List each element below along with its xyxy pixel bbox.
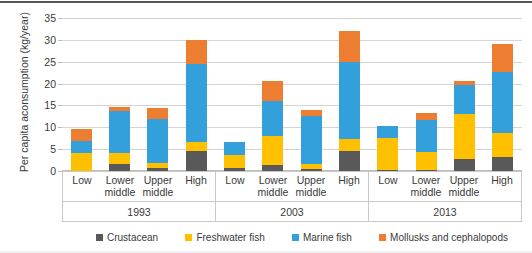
x-tick-label: Low <box>63 172 101 201</box>
stacked-bar[interactable] <box>301 110 322 171</box>
y-tick-label: 30 <box>44 34 56 46</box>
legend-swatch-icon <box>292 234 299 241</box>
x-tick-label-line1: High <box>185 174 207 186</box>
legend-label: Freshwater fish <box>196 232 264 243</box>
x-tick-label: Low <box>369 172 407 201</box>
stacked-bar[interactable] <box>224 142 245 171</box>
x-tick-label-line2: middle <box>411 186 442 198</box>
bar-group-2013 <box>369 18 522 171</box>
bar-segment-mollusks-and-cephalopods <box>147 108 168 119</box>
legend-item-crustacean[interactable]: Crustacean <box>96 232 158 243</box>
stacked-bar[interactable] <box>454 81 475 171</box>
bar-segment-marine-fish <box>416 120 437 151</box>
x-tick-label: Lowermiddle <box>407 172 445 201</box>
bar-slot <box>215 18 253 171</box>
stacked-bar[interactable] <box>71 129 92 171</box>
bar-slot <box>177 18 215 171</box>
bar-segment-freshwater-fish <box>186 142 207 151</box>
bar-segment-freshwater-fish <box>339 139 360 152</box>
bar-segment-marine-fish <box>71 141 92 153</box>
x-tick-label-line1: High <box>491 174 513 186</box>
year-label-band: 199320032013 <box>62 202 522 222</box>
bar-slot <box>254 18 292 171</box>
stacked-bar-chart: Per capita aconsumption (kg/year) 051015… <box>0 0 532 253</box>
stacked-bar[interactable] <box>262 81 283 171</box>
bar-groups <box>62 18 522 171</box>
year-label-2013: 2013 <box>368 202 521 221</box>
x-tick-label-line2: middle <box>449 186 480 198</box>
y-tick-label: 10 <box>44 121 56 133</box>
x-tick-label: Uppermiddle <box>139 172 177 201</box>
x-tick-label-line1: High <box>338 174 360 186</box>
bar-segment-crustacean <box>454 159 475 171</box>
x-tick-label-line1: Lower <box>412 174 441 186</box>
category-label-band: LowLowermiddleUppermiddleHighLowLowermid… <box>62 171 522 202</box>
bar-segment-freshwater-fish <box>262 136 283 165</box>
top-divider <box>0 1 532 3</box>
bar-segment-marine-fish <box>147 119 168 163</box>
chart-legend: CrustaceanFreshwater fishMarine fishMoll… <box>62 228 522 246</box>
x-tick-label-line2: middle <box>105 186 136 198</box>
bar-segment-marine-fish <box>492 72 513 133</box>
bar-segment-mollusks-and-cephalopods <box>262 81 283 101</box>
x-tick-label: Uppermiddle <box>445 172 483 201</box>
bar-slot <box>100 18 138 171</box>
bar-segment-freshwater-fish <box>492 133 513 156</box>
x-tick-label-line1: Upper <box>450 174 479 186</box>
bar-segment-crustacean <box>492 157 513 171</box>
category-group-2003: LowLowermiddleUppermiddleHigh <box>215 172 368 201</box>
stacked-bar[interactable] <box>147 108 168 171</box>
bar-segment-crustacean <box>339 151 360 171</box>
year-label-1993: 1993 <box>63 202 215 221</box>
x-tick-label-line1: Upper <box>297 174 326 186</box>
legend-swatch-icon <box>379 234 386 241</box>
x-tick-label: Lowermiddle <box>101 172 139 201</box>
x-tick-label: High <box>177 172 215 201</box>
category-group-2013: LowLowermiddleUppermiddleHigh <box>368 172 521 201</box>
x-tick-label: High <box>330 172 368 201</box>
legend-swatch-icon <box>96 234 103 241</box>
x-tick-label-line2: middle <box>258 186 289 198</box>
bar-segment-mollusks-and-cephalopods <box>492 44 513 72</box>
bar-segment-marine-fish <box>224 142 245 156</box>
x-tick-label-line2: middle <box>296 186 327 198</box>
bar-segment-mollusks-and-cephalopods <box>186 40 207 64</box>
legend-swatch-icon <box>185 234 192 241</box>
x-tick-label-line1: Lower <box>259 174 288 186</box>
y-tick-label: 15 <box>44 99 56 111</box>
bar-segment-marine-fish <box>301 116 322 164</box>
y-tick-label: 25 <box>44 56 56 68</box>
bar-slot <box>407 18 445 171</box>
stacked-bar[interactable] <box>109 107 130 171</box>
x-tick-label: Low <box>216 172 254 201</box>
x-tick-label: Uppermiddle <box>292 172 330 201</box>
stacked-bar[interactable] <box>339 31 360 171</box>
stacked-bar[interactable] <box>186 40 207 171</box>
bar-segment-freshwater-fish <box>224 155 245 168</box>
bar-segment-marine-fish <box>262 101 283 136</box>
bar-segment-crustacean <box>109 164 130 171</box>
bar-slot <box>484 18 522 171</box>
legend-item-mollusks-and-cephalopods[interactable]: Mollusks and cephalopods <box>379 232 508 243</box>
category-group-1993: LowLowermiddleUppermiddleHigh <box>63 172 215 201</box>
bar-segment-freshwater-fish <box>71 153 92 171</box>
bar-slot <box>62 18 100 171</box>
stacked-bar[interactable] <box>492 44 513 171</box>
stacked-bar[interactable] <box>416 113 437 171</box>
y-tick-label: 0 <box>50 165 56 177</box>
y-tick-label: 20 <box>44 78 56 90</box>
x-tick-label-line1: Lower <box>106 174 135 186</box>
bar-slot <box>369 18 407 171</box>
bar-segment-mollusks-and-cephalopods <box>416 113 437 120</box>
legend-label: Marine fish <box>303 232 352 243</box>
legend-item-freshwater-fish[interactable]: Freshwater fish <box>185 232 264 243</box>
bar-segment-freshwater-fish <box>416 152 437 170</box>
y-tick-label: 35 <box>44 12 56 24</box>
bar-segment-freshwater-fish <box>377 138 398 169</box>
x-tick-label-line1: Low <box>225 174 244 186</box>
bar-slot <box>292 18 330 171</box>
bar-segment-freshwater-fish <box>109 153 130 164</box>
legend-item-marine-fish[interactable]: Marine fish <box>292 232 352 243</box>
y-axis-title: Per capita aconsumption (kg/year) <box>18 6 30 178</box>
stacked-bar[interactable] <box>377 126 398 171</box>
